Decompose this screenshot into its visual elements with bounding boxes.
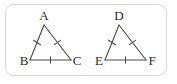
vertex-label-a: A	[39, 8, 49, 23]
triangles-diagram: A B C D E F	[0, 0, 177, 84]
tick-mark-side-ab	[34, 40, 41, 45]
vertex-label-e: E	[95, 53, 103, 68]
triangle-abc: A B C	[20, 8, 82, 68]
geometry-figure: A B C D E F	[0, 0, 177, 84]
vertex-label-d: D	[114, 8, 123, 23]
triangle-def: D E F	[95, 8, 156, 68]
tick-mark-side-ac	[54, 40, 60, 44]
vertex-label-c: C	[73, 53, 82, 68]
tick-mark-side-de	[109, 40, 116, 45]
tick-mark-side-df	[129, 40, 135, 44]
vertex-label-f: F	[148, 53, 155, 68]
vertex-label-b: B	[20, 53, 29, 68]
